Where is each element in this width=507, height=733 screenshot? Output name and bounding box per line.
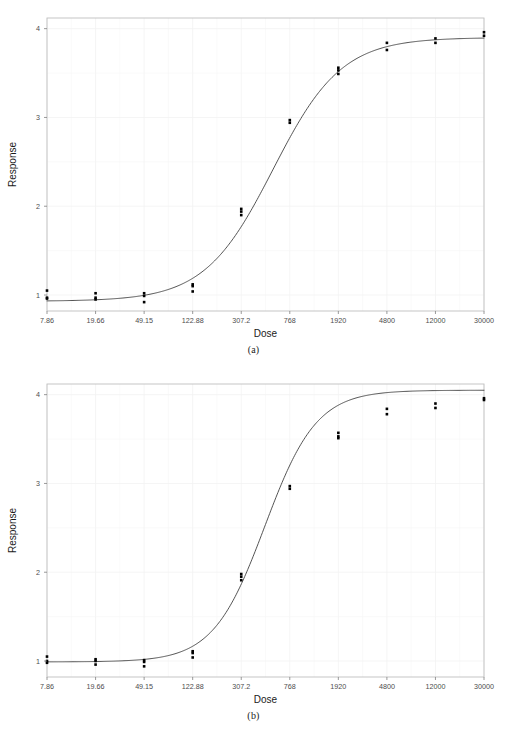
y-tick-label: 3 bbox=[36, 479, 40, 488]
x-tick-label: 19.66 bbox=[87, 316, 105, 325]
x-tick-label: 30000 bbox=[474, 682, 494, 691]
figure-caption-b: (b) bbox=[0, 708, 507, 724]
x-tick-label: 1920 bbox=[330, 316, 346, 325]
figure-panel-a: 7.8619.6649.15122.88307.2768192048001200… bbox=[0, 0, 507, 366]
y-tick-label: 2 bbox=[36, 202, 40, 211]
y-axis-title: Response bbox=[7, 508, 18, 553]
x-tick-label: 12000 bbox=[425, 682, 445, 691]
x-tick-label: 30000 bbox=[474, 316, 494, 325]
x-tick-label: 12000 bbox=[425, 316, 445, 325]
x-tick-label: 768 bbox=[284, 316, 296, 325]
plot-area-a: 7.8619.6649.15122.88307.2768192048001200… bbox=[0, 0, 507, 340]
x-axis-title: Dose bbox=[254, 694, 278, 705]
x-tick-label: 4800 bbox=[379, 682, 395, 691]
x-axis-title: Dose bbox=[254, 328, 278, 339]
plot-area-b: 7.8619.6649.15122.88307.2768192048001200… bbox=[0, 366, 507, 706]
y-axis-title: Response bbox=[7, 142, 18, 187]
y-tick-label: 4 bbox=[36, 390, 40, 399]
y-tick-label: 1 bbox=[36, 657, 40, 666]
y-tick-label: 3 bbox=[36, 113, 40, 122]
y-tick-label: 2 bbox=[36, 568, 40, 577]
x-tick-label: 7.86 bbox=[40, 316, 54, 325]
y-tick-label: 1 bbox=[36, 291, 40, 300]
x-tick-label: 19.66 bbox=[87, 682, 105, 691]
x-tick-label: 307.2 bbox=[232, 682, 250, 691]
x-tick-label: 307.2 bbox=[232, 316, 250, 325]
chart-svg-a: 7.8619.6649.15122.88307.2768192048001200… bbox=[0, 0, 507, 340]
y-tick-label: 4 bbox=[36, 24, 40, 33]
x-tick-label: 122.88 bbox=[182, 682, 204, 691]
x-tick-label: 768 bbox=[284, 682, 296, 691]
figure-caption-a: (a) bbox=[0, 342, 507, 358]
chart-svg-b: 7.8619.6649.15122.88307.2768192048001200… bbox=[0, 366, 507, 706]
x-tick-label: 4800 bbox=[379, 316, 395, 325]
x-tick-label: 1920 bbox=[330, 682, 346, 691]
x-tick-label: 49.15 bbox=[135, 682, 153, 691]
figure-panel-b: 7.8619.6649.15122.88307.2768192048001200… bbox=[0, 366, 507, 733]
x-tick-label: 7.86 bbox=[40, 682, 54, 691]
x-tick-label: 122.88 bbox=[182, 316, 204, 325]
x-tick-label: 49.15 bbox=[135, 316, 153, 325]
